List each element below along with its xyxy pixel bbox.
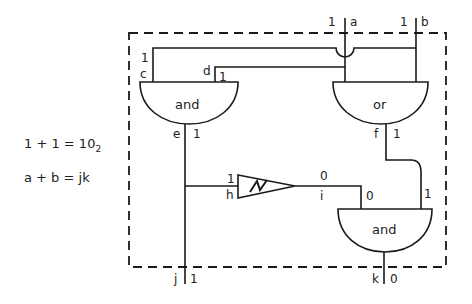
wire-i-label: i <box>320 189 323 203</box>
wire-f <box>386 124 421 209</box>
or-gate-label: or <box>373 97 387 112</box>
wire-h-value: 1 <box>227 172 235 186</box>
wire-c-value: 1 <box>141 51 149 65</box>
wire-h-label: h <box>226 188 234 202</box>
output-k-value: 0 <box>390 272 398 286</box>
input-a-value: 1 <box>328 15 336 29</box>
output-k-label: k <box>372 272 379 286</box>
and-gate-bottom-label: and <box>372 222 396 237</box>
output-j-label: j <box>173 272 177 286</box>
equation-half-adder: a + b = jk <box>24 170 90 185</box>
wire-d <box>215 67 345 82</box>
wire-i-input-value: 0 <box>366 189 374 203</box>
not-gate <box>238 175 295 198</box>
wire-c-label: c <box>140 67 147 81</box>
wire-c <box>153 48 416 82</box>
input-b-value: 1 <box>400 15 408 29</box>
wire-i-value: 0 <box>320 169 328 183</box>
wire-f-label: f <box>374 127 379 141</box>
wire-f-value: 1 <box>393 127 401 141</box>
wire-d-value: 1 <box>219 70 227 84</box>
input-b-label: b <box>421 15 429 29</box>
wire-d-label: d <box>203 64 211 78</box>
output-j-value: 1 <box>190 272 198 286</box>
and-gate-top-label: and <box>175 97 199 112</box>
wire-e-label: e <box>173 127 180 141</box>
wire-f-input-value: 1 <box>424 187 432 201</box>
wire-e-value: 1 <box>193 127 201 141</box>
input-a-label: a <box>350 15 357 29</box>
equation-binary-sum: 1 + 1 = 102 <box>24 136 101 154</box>
half-adder-diagram: 1 + 1 = 102 a + b = jk and or and 1 a 1 … <box>0 0 472 304</box>
wire-i <box>295 186 361 209</box>
